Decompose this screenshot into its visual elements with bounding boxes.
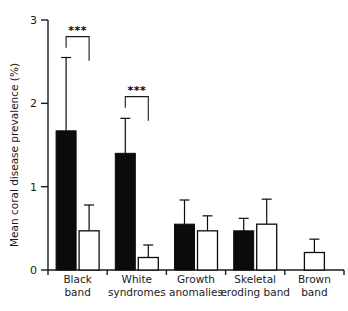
y-axis-title-text: Mean coral disease prevalence (%): [8, 63, 20, 247]
bar-filled-2: [175, 224, 195, 270]
bar-open-1: [138, 258, 158, 271]
x-category-label-line: syndromes: [108, 286, 166, 298]
x-category-1: Whitesyndromes: [108, 273, 166, 298]
bracket-path: [125, 97, 148, 121]
x-category-label-line: anomalies: [169, 286, 223, 298]
bar-chart-svg: Mean coral disease prevalence (%) 0123 *…: [0, 0, 348, 311]
y-axis-title: Mean coral disease prevalence (%): [8, 63, 20, 247]
x-category-0: Blackband: [63, 273, 92, 298]
x-category-label-line: eroding band: [220, 286, 290, 298]
x-category-3: Skeletaleroding band: [220, 273, 290, 298]
significance-bracket-1: ***: [125, 84, 148, 121]
y-tick-2: 2: [30, 97, 48, 110]
significance-stars: ***: [68, 24, 87, 37]
x-category-label-line: White: [122, 273, 153, 285]
bar-open-4: [304, 253, 324, 271]
bar-filled-1: [115, 153, 135, 270]
x-axis-category-labels: BlackbandWhitesyndromesGrowthanomaliesSk…: [48, 270, 344, 298]
y-tick-1: 1: [30, 181, 48, 194]
x-category-label-line: Brown: [298, 273, 331, 285]
y-tick-label: 0: [30, 264, 37, 277]
significance-stars: ***: [127, 84, 146, 97]
y-axis-ticks: 0123: [30, 14, 48, 277]
x-category-label-line: Skeletal: [234, 273, 276, 285]
x-category-4: Brownband: [298, 273, 331, 298]
bars-layer: [56, 58, 324, 271]
y-tick-3: 3: [30, 14, 48, 27]
y-tick-label: 1: [30, 181, 37, 194]
bar-open-0: [79, 231, 99, 270]
x-category-2: Growthanomalies: [169, 273, 223, 298]
significance-bracket-0: ***: [66, 24, 89, 61]
bar-open-3: [257, 224, 277, 270]
bar-filled-3: [234, 231, 254, 270]
bar-open-2: [198, 231, 218, 270]
significance-annotations: ******: [66, 24, 148, 121]
x-category-label-line: band: [64, 286, 90, 298]
x-category-label-line: Growth: [177, 273, 215, 285]
x-category-label-line: band: [301, 286, 327, 298]
bar-filled-0: [56, 131, 76, 270]
x-category-label-line: Black: [63, 273, 92, 285]
chart-container: Mean coral disease prevalence (%) 0123 *…: [0, 0, 348, 311]
y-tick-0: 0: [30, 264, 48, 277]
y-tick-label: 2: [30, 97, 37, 110]
y-tick-label: 3: [30, 14, 37, 27]
